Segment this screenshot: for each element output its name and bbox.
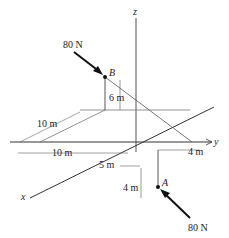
- A-x-offset-label: 5 m: [99, 159, 115, 170]
- point-A: [156, 185, 160, 189]
- force-B-label: 80 N: [63, 39, 83, 50]
- force-diagram: z y x 6 m 10 m 10 m 5 m 4 m 4 m B A 80 N…: [0, 0, 229, 238]
- B-height-label: 6 m: [109, 92, 125, 103]
- A-depth-label: 4 m: [123, 182, 139, 193]
- A-y-offset-label: 4 m: [188, 146, 204, 157]
- force-A-label: 80 N: [188, 222, 208, 233]
- z-axis-label: z: [132, 6, 137, 17]
- point-A-label: A: [161, 177, 169, 188]
- dim-10m-upper-label: 10 m: [37, 118, 58, 129]
- y-axis-label: y: [213, 136, 219, 147]
- dim-10m-lower-label: 10 m: [52, 147, 73, 158]
- point-B-label: B: [109, 67, 115, 78]
- point-B: [103, 75, 107, 79]
- x-axis-label: x: [20, 191, 26, 202]
- BA-line: [105, 77, 192, 142]
